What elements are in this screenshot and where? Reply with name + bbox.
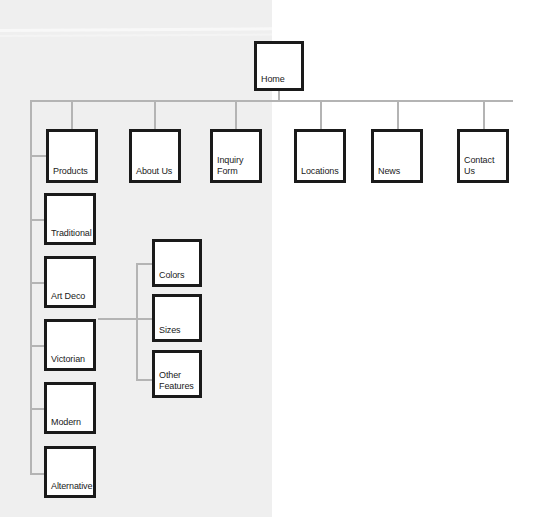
node-contact-us-label: Contact Us bbox=[464, 155, 504, 176]
node-news[interactable]: News bbox=[371, 129, 423, 183]
node-products-label: Products bbox=[53, 166, 93, 177]
node-other-features[interactable]: Other Features bbox=[152, 350, 202, 398]
node-modern-label: Modern bbox=[51, 417, 91, 428]
node-traditional-label: Traditional bbox=[51, 228, 91, 239]
node-colors[interactable]: Colors bbox=[152, 239, 202, 287]
node-inquiry-form-label: Inquiry Form bbox=[217, 155, 257, 176]
connector-drop-contact bbox=[483, 100, 485, 130]
connector-main-trunk bbox=[30, 100, 513, 102]
node-about-us[interactable]: About Us bbox=[129, 129, 181, 183]
node-contact-us[interactable]: Contact Us bbox=[457, 129, 509, 183]
connector-feed-attributes bbox=[98, 318, 138, 320]
connector-attributes-spine bbox=[136, 263, 138, 380]
node-products[interactable]: Products bbox=[46, 129, 98, 183]
node-alternative[interactable]: Alternative bbox=[44, 446, 96, 498]
node-about-us-label: About Us bbox=[136, 166, 176, 177]
node-home[interactable]: Home bbox=[254, 41, 304, 91]
node-colors-label: Colors bbox=[159, 270, 197, 281]
connector-drop-news bbox=[397, 100, 399, 130]
connector-stub-products bbox=[30, 155, 47, 157]
connector-drop-locations bbox=[320, 100, 322, 130]
sitemap-diagram: Home Products About Us Inquiry Form Loca… bbox=[0, 0, 541, 517]
node-other-features-label: Other Features bbox=[159, 370, 197, 391]
node-home-label: Home bbox=[261, 74, 299, 85]
node-modern[interactable]: Modern bbox=[44, 382, 96, 434]
node-news-label: News bbox=[378, 166, 418, 177]
node-locations-label: Locations bbox=[301, 166, 341, 177]
node-victorian-label: Victorian bbox=[51, 354, 91, 365]
node-alternative-label: Alternative bbox=[51, 481, 91, 492]
background-shade-panel bbox=[0, 0, 272, 517]
connector-drop-about bbox=[154, 100, 156, 130]
connector-drop-products bbox=[71, 100, 73, 130]
node-sizes[interactable]: Sizes bbox=[152, 294, 202, 342]
node-inquiry-form[interactable]: Inquiry Form bbox=[210, 129, 262, 183]
node-art-deco[interactable]: Art Deco bbox=[44, 256, 96, 308]
connector-drop-inquiry bbox=[235, 100, 237, 130]
node-traditional[interactable]: Traditional bbox=[44, 193, 96, 245]
node-art-deco-label: Art Deco bbox=[51, 291, 91, 302]
node-sizes-label: Sizes bbox=[159, 325, 197, 336]
node-victorian[interactable]: Victorian bbox=[44, 319, 96, 371]
node-locations[interactable]: Locations bbox=[294, 129, 346, 183]
